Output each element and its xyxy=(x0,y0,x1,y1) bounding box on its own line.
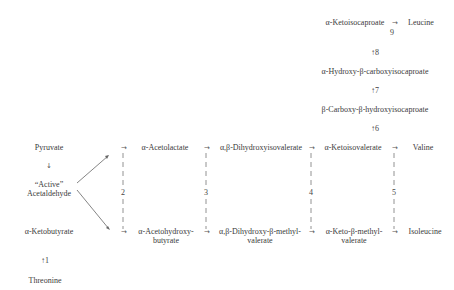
arrow-right-icon: → xyxy=(392,228,398,236)
arrow-right-icon: → xyxy=(121,228,127,236)
step-5-label: 5 xyxy=(392,188,396,197)
alpha-ketoisovalerate-label: α-Ketoisovalerate xyxy=(324,143,381,152)
dihydroxyisovalerate-label: α,β-Dihydroxyisovalerate xyxy=(220,143,302,152)
alpha-acetolactate-label: α-Acetolactate xyxy=(142,143,189,152)
alpha-ketoisocaproate-label: α-Ketoisocaproate xyxy=(326,18,385,27)
step-1-label: ↑1 xyxy=(41,256,49,265)
diagonal-arrow-up xyxy=(77,156,108,183)
diagonal-arrow-down xyxy=(77,190,109,229)
valine-label: Valine xyxy=(413,143,433,152)
active-acetaldehyde-line2: Acetaldehyde xyxy=(27,189,71,198)
arrow-right-icon: → xyxy=(204,144,210,152)
step-4-label: 4 xyxy=(309,188,313,197)
arrow-right-icon: → xyxy=(309,228,315,236)
arrow-right-icon: → xyxy=(309,144,315,152)
isoleucine-label: Isoleucine xyxy=(409,227,442,236)
threonine-label: Threonine xyxy=(29,276,62,285)
dihydroxy-methylvalerate-line2: valerate xyxy=(247,236,272,245)
hydroxy-carboxyisocaproate-label: α-Hydroxy-β-carboxyisocaproate xyxy=(322,67,429,76)
enzyme-dashed-lines xyxy=(123,153,394,229)
pyruvate-label: Pyruvate xyxy=(35,143,63,152)
active-acetaldehyde-line1: “Active” xyxy=(35,180,63,189)
step-8-label: ↑8 xyxy=(371,48,379,57)
arrow-right-icon: → xyxy=(392,144,398,152)
acetohydroxybutyrate-line1: α-Acetohydroxy- xyxy=(138,227,193,236)
alpha-ketobutyrate-label: α-Ketobutyrate xyxy=(25,227,74,236)
down-arrow-icon: ↓ xyxy=(46,162,52,170)
step-9-label: 9 xyxy=(390,28,394,37)
step-2-label: 2 xyxy=(121,188,125,197)
arrow-right-icon: → xyxy=(392,19,398,27)
acetohydroxybutyrate-line2: butyrate xyxy=(153,236,179,245)
step-6-label: ↑6 xyxy=(371,124,379,133)
carboxy-hydroxyisocaproate-label: β-Carboxy-β-hydroxyisocaproate xyxy=(322,105,429,114)
arrow-right-icon: → xyxy=(204,228,210,236)
step-7-label: ↑7 xyxy=(371,86,379,95)
leucine-label: Leucine xyxy=(408,18,434,27)
keto-methylvalerate-line1: α-Keto-β-methyl- xyxy=(326,227,383,236)
step-3-label: 3 xyxy=(204,188,208,197)
arrow-right-icon: → xyxy=(121,144,127,152)
keto-methylvalerate-line2: valerate xyxy=(341,236,366,245)
dihydroxy-methylvalerate-line1: α,β-Dihydroxy-β-methyl- xyxy=(219,227,301,236)
